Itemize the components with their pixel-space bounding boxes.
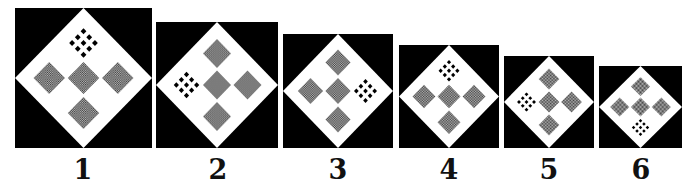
panel-label-4: 4 <box>429 154 469 186</box>
panel-label-3: 3 <box>318 154 358 186</box>
stimulus-graphic <box>599 66 682 148</box>
stimulus-panel-3 <box>283 34 393 148</box>
panel-label-2: 2 <box>198 154 238 186</box>
stimulus-panel-6 <box>599 66 682 148</box>
panel-label-5: 5 <box>529 154 569 186</box>
stimulus-panel-2 <box>156 22 278 148</box>
stimulus-graphic <box>15 8 152 148</box>
stimulus-graphic <box>504 56 594 148</box>
stimulus-graphic <box>399 45 499 148</box>
stimulus-panel-4 <box>399 45 499 148</box>
stimulus-panel-1 <box>15 8 152 148</box>
stimulus-graphic <box>283 34 393 148</box>
panel-label-6: 6 <box>621 154 661 186</box>
panel-label-1: 1 <box>63 154 103 186</box>
stimulus-graphic <box>156 22 278 148</box>
stimulus-panel-5 <box>504 56 594 148</box>
